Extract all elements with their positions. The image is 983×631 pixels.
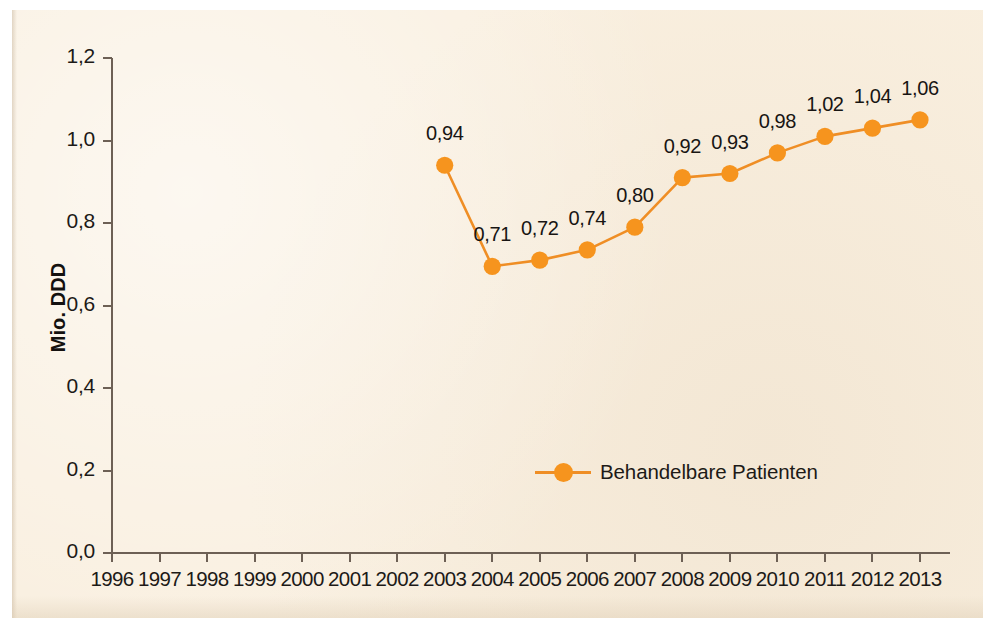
legend-entry-label: Behandelbare Patienten xyxy=(600,460,818,484)
data-point-marker xyxy=(769,144,786,161)
data-point-marker xyxy=(864,120,881,137)
data-point-value-label: 0,74 xyxy=(557,207,617,230)
data-point-marker xyxy=(484,258,501,275)
y-axis-tick-label: 0,2 xyxy=(25,457,95,481)
chart-figure: Mio. DDD 0,00,20,40,60,81,01,2 199619971… xyxy=(0,0,983,631)
data-point-value-label: 0,80 xyxy=(605,184,665,207)
data-point-marker xyxy=(579,241,596,258)
data-point-marker xyxy=(911,111,928,128)
data-point-value-label: 0,94 xyxy=(415,122,475,145)
data-point-value-label: 1,06 xyxy=(890,77,950,100)
chart-legend: Behandelbare Patienten xyxy=(535,455,818,489)
data-point-marker xyxy=(626,219,643,236)
data-point-marker xyxy=(674,169,691,186)
y-axis-tick-label: 1,2 xyxy=(25,44,95,68)
y-axis-tick-label: 0,8 xyxy=(25,209,95,233)
y-axis-tick-label: 0,4 xyxy=(25,374,95,398)
legend-marker-icon xyxy=(535,459,591,485)
data-point-marker xyxy=(531,252,548,269)
y-axis-tick-label: 1,0 xyxy=(25,127,95,151)
data-point-marker xyxy=(816,128,833,145)
data-point-value-label: 0,93 xyxy=(700,131,760,154)
data-point-marker xyxy=(436,157,453,174)
y-axis-tick-label: 0,6 xyxy=(25,292,95,316)
data-point-marker xyxy=(721,165,738,182)
x-axis-tick-label: 2013 xyxy=(890,567,950,591)
y-axis-tick-label: 0,0 xyxy=(25,539,95,563)
